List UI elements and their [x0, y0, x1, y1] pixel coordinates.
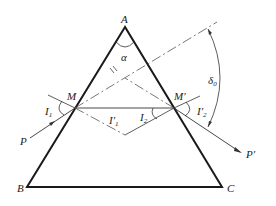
parallel-mark [113, 66, 117, 71]
emergent-ray [174, 108, 240, 152]
vertex-b-label: B [17, 182, 24, 194]
apex-angle-label: α [121, 51, 127, 63]
angle-i2-label: I2 [139, 111, 148, 125]
prism-diagram: A B C M M′ α I1 I′1 I2 I′2 δ0 P P′ [0, 0, 276, 206]
incident-extension [75, 22, 217, 108]
angle-i1prime-label: I′1 [108, 114, 119, 128]
deviation-arrow-bottom-icon [208, 121, 212, 127]
angle-i2prime-label: I′2 [196, 105, 207, 119]
ray-out-label: P′ [245, 148, 256, 160]
ray-in-label: P [19, 135, 27, 147]
point-m-label: M [66, 90, 77, 102]
angle-i1-arc [59, 101, 64, 115]
angle-i1-label: I1 [44, 105, 52, 119]
vertex-c-label: C [227, 182, 235, 194]
parallel-mark [110, 68, 114, 73]
deviation-arrow-top-icon [208, 29, 212, 35]
emergent-arrow-icon [234, 147, 242, 153]
apex-angle-arc [116, 42, 134, 47]
normal-mprime-inner [125, 108, 174, 135]
deviation-label: δ0 [208, 74, 217, 88]
angle-i2prime-arc [185, 102, 190, 116]
vertex-a-label: A [120, 13, 128, 25]
point-mprime-label: M′ [173, 90, 186, 102]
emergent-extension [125, 78, 174, 108]
